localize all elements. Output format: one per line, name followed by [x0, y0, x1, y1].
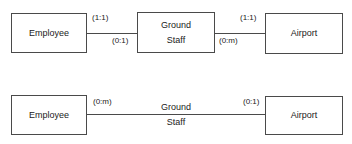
bottom-entity-airport: Airport	[265, 96, 343, 135]
cardinality-airport-bottom: (0:1)	[243, 97, 259, 106]
entity-label-line-2: Staff	[167, 33, 185, 48]
bottom-entity-employee: Employee	[11, 95, 87, 135]
top-entity-airport: Airport	[265, 13, 343, 54]
cardinality-groundstaff-left: (0:1)	[112, 36, 128, 45]
cardinality-airport-top: (1:1)	[240, 13, 256, 22]
entity-label: Employee	[29, 108, 69, 123]
cardinality-employee-bottom: (0:m)	[93, 97, 112, 106]
relationship-label-line-1: Ground	[161, 102, 191, 112]
entity-label: Employee	[29, 26, 69, 41]
cardinality-groundstaff-right: (0:m)	[219, 36, 238, 45]
cardinality-employee-top: (1:1)	[92, 13, 108, 22]
top-entity-ground-staff: Ground Staff	[137, 12, 215, 53]
top-line-employee-groundstaff	[86, 33, 137, 34]
entity-label: Airport	[291, 26, 318, 41]
relationship-label-line-2: Staff	[167, 117, 185, 127]
entity-label: Airport	[291, 108, 318, 123]
top-entity-employee: Employee	[11, 13, 87, 53]
top-line-groundstaff-airport	[214, 33, 265, 34]
bottom-relationship-line	[86, 114, 265, 115]
entity-label-line-1: Ground	[161, 18, 191, 33]
